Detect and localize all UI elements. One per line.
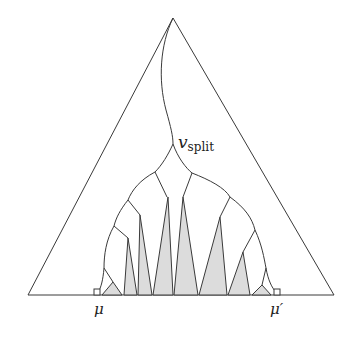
right-inner-3 [243, 230, 255, 252]
diagram-canvas: vsplit μ μ′ [0, 0, 355, 337]
shaded-triangle-3 [138, 215, 152, 295]
left-branch [155, 144, 173, 172]
mu-prime-marker [274, 289, 280, 295]
right-inner-1 [183, 173, 192, 197]
mu-prime-label: μ′ [270, 300, 284, 318]
shaded-triangle-4 [153, 197, 173, 295]
shaded-triangle-2 [124, 238, 137, 295]
mu-label: μ [94, 300, 104, 318]
right-inner-4 [262, 268, 266, 285]
mu-marker [94, 289, 100, 295]
shaded-triangle-8 [252, 285, 271, 295]
left-inner-4 [104, 268, 113, 282]
shaded-triangle-1 [102, 282, 122, 295]
right-inner-2 [220, 197, 230, 217]
left-inner-3 [114, 226, 128, 238]
shaded-triangle-7 [228, 252, 250, 295]
shaded-triangle-6 [199, 217, 227, 295]
left-inner-2 [128, 200, 140, 215]
left-inner-1 [155, 172, 167, 197]
shaded-triangle-5 [174, 197, 198, 295]
v-split-label: vsplit [178, 132, 214, 154]
